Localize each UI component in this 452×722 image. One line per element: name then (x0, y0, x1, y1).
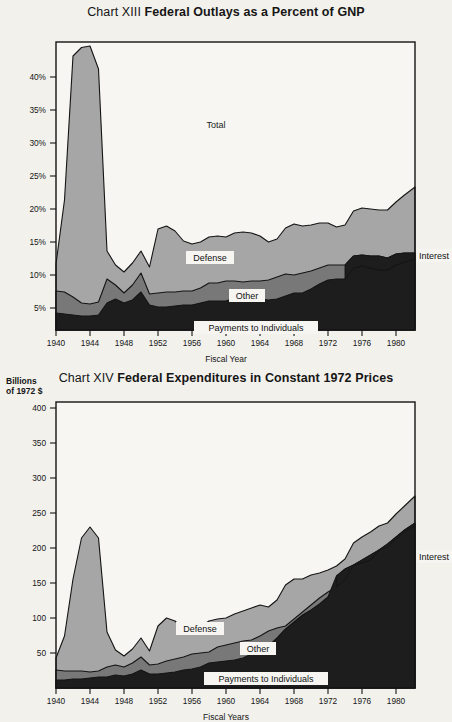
payments-label: Payments to Individuals (218, 674, 314, 684)
chart-xiii-xtick-label: 1968 (285, 338, 304, 348)
chart-xiv-xtick: 1956 (183, 688, 202, 706)
chart-xiii-ytick-label: 40% (29, 72, 46, 82)
chart-xiii-ytick-label: 5% (34, 303, 47, 313)
chart-xiii-xtick: 1980 (387, 330, 406, 348)
chart-xiii-ytick-25: 25% (29, 171, 56, 181)
chart-xiv-xaxis-title: Fiscal Years (0, 712, 452, 722)
chart-xiii-ytick-label: 20% (29, 204, 46, 214)
interest-label: Interest (419, 552, 450, 562)
payments-label: Payments to Individuals (208, 323, 304, 333)
chart-xiv-block: Chart XIV Federal Expenditures in Consta… (0, 366, 452, 722)
chart-xiv-ytick-300: 300 (32, 473, 56, 483)
chart-xiii-title-text: Federal Outlays as a Percent of GNP (145, 5, 365, 19)
chart-xiii-ytick-10: 10% (29, 270, 56, 280)
chart-xiii-xtick-label: 1960 (217, 338, 236, 348)
chart-xiii-number: Chart XIII (87, 5, 141, 19)
chart-xiv-ytick-label: 350 (32, 438, 46, 448)
chart-xiii-plot-wrap: 5% 10% 15% 20% 25% (0, 20, 452, 368)
interest-label: Interest (419, 251, 450, 261)
chart-xiv-xtick: 1976 (353, 688, 372, 706)
chart-xiii-ytick-5: 5% (34, 303, 56, 313)
chart-xiii-ytick-label: 25% (29, 171, 46, 181)
chart-xiii-ytick-label: 30% (29, 138, 46, 148)
chart-xiv-yaxis-title-line2: of 1972 $ (6, 386, 66, 396)
chart-xiv-yaxis-title: Billions of 1972 $ (6, 376, 66, 396)
chart-xiv-xtick: 1964 (251, 688, 270, 706)
chart-xiv-xtick-label: 1960 (217, 696, 236, 706)
chart-xiii-ytick-30: 30% (29, 138, 56, 148)
chart-xiv-ytick-label: 400 (32, 403, 46, 413)
chart-xiv-ytick-label: 300 (32, 473, 46, 483)
chart-xiii-xtick: 1948 (115, 330, 134, 348)
chart-xiii-annotation-payments: Payments to Individuals (194, 321, 318, 334)
chart-xiv-annotation-defense: Defense (176, 622, 224, 635)
chart-xiii-xtick-label: 1972 (319, 338, 338, 348)
chart-xiv-annotation-payments: Payments to Individuals (204, 672, 328, 685)
chart-xiv-ytick-250: 250 (32, 508, 56, 518)
chart-xiii-xtick-label: 1948 (115, 338, 134, 348)
chart-xiv-ytick-label: 200 (32, 543, 46, 553)
chart-xiv-xtick-label: 1980 (387, 696, 406, 706)
total-label: Total (206, 120, 225, 130)
chart-xiv-ytick-200: 200 (32, 543, 56, 553)
chart-xiv-ytick-350: 350 (32, 438, 56, 448)
chart-xiv-y-axis: 50 100 150 200 250 (32, 403, 56, 658)
chart-xiii-annotation-interest: Interest (417, 249, 452, 262)
chart-xiii-xtick-label: 1944 (81, 338, 100, 348)
chart-xiii-svg: 5% 10% 15% 20% 25% (0, 20, 452, 368)
chart-xiii-ytick-label: 10% (29, 270, 46, 280)
chart-xiv-xtick: 1940 (47, 688, 66, 706)
chart-xiii-xtick-label: 1964 (251, 338, 270, 348)
chart-xiv-xtick-label: 1952 (149, 696, 168, 706)
defense-label: Defense (183, 624, 217, 634)
chart-xiv-xtick-label: 1944 (81, 696, 100, 706)
chart-xiv-xtick: 1960 (217, 688, 236, 706)
chart-xiv-xtick-label: 1964 (251, 696, 270, 706)
chart-xiv-xtick: 1944 (81, 688, 100, 706)
chart-xiv-x-axis: 1940 1944 1948 1952 1956 1960 1964 1968 … (47, 688, 406, 706)
chart-xiv-ytick-label: 250 (32, 508, 46, 518)
chart-xiv-xtick-label: 1976 (353, 696, 372, 706)
chart-xiii-annotation-defense: Defense (186, 251, 234, 264)
chart-xiv-ytick-label: 50 (37, 648, 47, 658)
chart-xiii-ytick-label: 15% (29, 237, 46, 247)
chart-xiii-xtick: 1940 (47, 330, 66, 348)
chart-xiv-xtick-label: 1940 (47, 696, 66, 706)
chart-xiv-xtick: 1980 (387, 688, 406, 706)
chart-xiii-ytick-40: 40% (29, 72, 56, 82)
chart-xiv-title-text: Federal Expenditures in Constant 1972 Pr… (117, 371, 393, 385)
chart-xiv-ytick-50: 50 (37, 648, 56, 658)
chart-xiv-title: Chart XIV Federal Expenditures in Consta… (0, 366, 452, 386)
chart-xiii-ytick-20: 20% (29, 204, 56, 214)
chart-xiii-xtick-label: 1956 (183, 338, 202, 348)
chart-xiv-xtick: 1952 (149, 688, 168, 706)
chart-xiii-xaxis-title: Fiscal Year (0, 354, 452, 364)
chart-xiii-xtick-label: 1940 (47, 338, 66, 348)
chart-xiv-annotation-interest: Interest (417, 550, 452, 563)
chart-xiii-ytick-35: 35% (29, 105, 56, 115)
chart-xiv-svg: 50 100 150 200 250 (0, 386, 452, 722)
chart-xiv-xtick: 1968 (285, 688, 304, 706)
chart-xiv-xtick-label: 1956 (183, 696, 202, 706)
chart-xiv-ytick-label: 100 (32, 613, 46, 623)
chart-xiii-title: Chart XIII Federal Outlays as a Percent … (0, 0, 452, 20)
chart-xiii-xtick-label: 1980 (387, 338, 406, 348)
chart-xiv-ytick-100: 100 (32, 613, 56, 623)
other-label: Other (236, 291, 259, 301)
chart-xiii-xtick: 1976 (353, 330, 372, 348)
chart-xiv-xtick-label: 1948 (115, 696, 134, 706)
chart-xiv-yaxis-title-line1: Billions (6, 376, 66, 386)
defense-label: Defense (193, 253, 227, 263)
chart-xiii-xtick: 1944 (81, 330, 100, 348)
chart-xiv-number: Chart XIV (59, 371, 114, 385)
chart-xiv-xtick: 1948 (115, 688, 134, 706)
chart-xiii-annotation-other: Other (229, 289, 265, 302)
chart-xiii-annotation-total: Total (206, 120, 225, 130)
chart-xiv-plot-wrap: 50 100 150 200 250 (0, 386, 452, 722)
chart-xiv-xtick: 1972 (319, 688, 338, 706)
chart-xiii-ytick-label: 35% (29, 105, 46, 115)
chart-xiii-y-axis: 5% 10% 15% 20% 25% (29, 72, 56, 313)
chart-xiii-xtick-label: 1976 (353, 338, 372, 348)
chart-xiv-ytick-label: 150 (32, 578, 46, 588)
chart-xiii-xtick-label: 1952 (149, 338, 168, 348)
